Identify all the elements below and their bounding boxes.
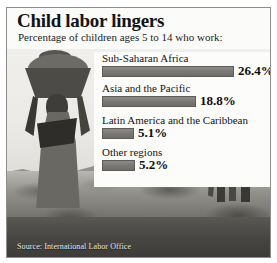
category-label: Latin America and the Caribbean <box>102 114 248 126</box>
ground-base-strip <box>7 217 270 257</box>
page-title: Child labor lingers <box>17 10 164 32</box>
value-label: 18.8% <box>200 94 236 107</box>
value-label: 5.1% <box>138 126 167 139</box>
bar-segment <box>102 160 135 171</box>
page-subtitle: Percentage of children ages 5 to 14 who … <box>18 31 223 43</box>
headline-panel: Child labor lingers Percentage of childr… <box>7 8 270 49</box>
infographic-figure: Child labor lingers Percentage of childr… <box>0 0 277 263</box>
category-label: Sub-Saharan Africa <box>102 52 188 64</box>
right-arm-shape <box>77 96 90 136</box>
bar-segment <box>102 128 134 139</box>
garment-shape <box>37 118 77 148</box>
bar-chart: Sub-Saharan Africa 26.4% Asia and the Pa… <box>94 52 271 187</box>
child-carrying-load-icon <box>19 46 103 206</box>
value-label: 26.4% <box>238 64 271 77</box>
value-label: 5.2% <box>139 158 168 171</box>
bar-segment <box>102 66 234 77</box>
figure-frame: Child labor lingers Percentage of childr… <box>6 7 271 258</box>
source-caption: Source: International Labor Office <box>17 242 131 251</box>
bar-segment <box>102 96 196 107</box>
left-arm-shape <box>25 96 38 136</box>
category-label: Asia and the Pacific <box>102 82 190 94</box>
